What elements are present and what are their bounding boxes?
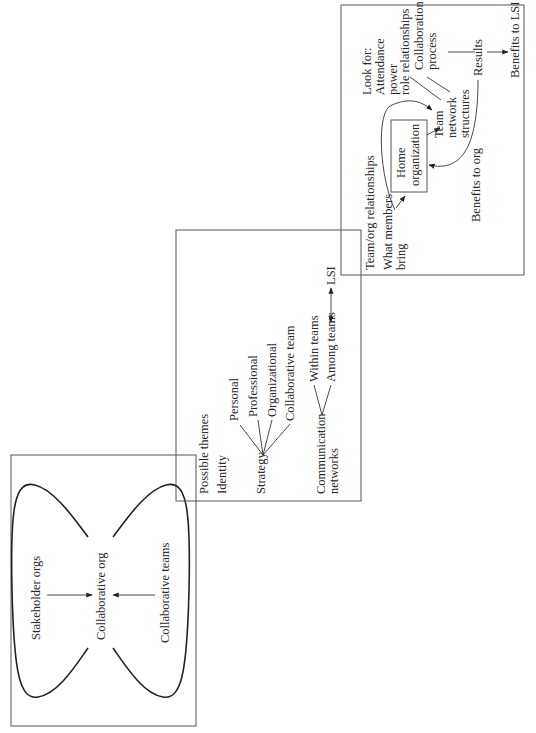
comm-branch-line [322,385,331,415]
team-org-relationships: Team/org relationships [363,155,377,270]
branch-within-teams: Within teams [307,315,321,382]
process-label: process [425,32,439,70]
comm-branch-line [314,385,322,415]
panel-left: Stakeholder orgs Collaborative org Colla… [11,455,196,726]
members-arrow [396,196,405,208]
benefits-to-lsi: Benefits to LSI [508,2,522,78]
diagram-canvas: Stakeholder orgs Collaborative org Colla… [0,0,536,733]
home-label: Home [394,147,408,178]
branch-professional: Professional [246,355,260,417]
look-for-attendance: Attendance [373,38,387,95]
panel-middle: Possible themes Identity Strategy Person… [176,230,361,501]
theme-strategy: Strategy [254,452,268,494]
label-stakeholder-orgs: Stakeholder orgs [29,556,43,640]
look-for-role-relationships: role relationships [398,8,412,95]
collaboration-label: Collaboration [412,1,426,70]
stakeholder-lobe-shape [12,484,88,697]
team-label: Team [432,110,446,138]
theme-identity: Identity [215,454,229,494]
panel-right: Team/org relationships What members brin… [341,1,524,275]
branch-organizational: Organizational [265,342,279,417]
theme-communication: Communication [314,413,328,494]
benefits-to-org: Benefits to org [469,147,483,222]
look-for-label: Look for: [360,47,374,95]
possible-themes-title: Possible themes [197,414,211,494]
teams-lobe-shape [113,484,189,697]
process-line [427,77,450,92]
branch-collaborative-team: Collaborative team [283,325,297,421]
branch-personal: Personal [227,377,241,421]
branch-among-teams: Among teams [324,312,338,382]
results-label: Results [471,39,485,76]
theme-networks: networks [327,448,341,494]
network-label: network [445,96,459,138]
lsi-label: LSI [324,266,338,285]
look-for-line [410,77,441,100]
label-collaborative-teams: Collaborative teams [158,543,172,643]
organization-label: organization [408,123,422,186]
label-collaborative-org: Collaborative org [94,552,108,640]
structures-label: structures [458,89,472,138]
what-members-bring: bring [394,243,408,270]
